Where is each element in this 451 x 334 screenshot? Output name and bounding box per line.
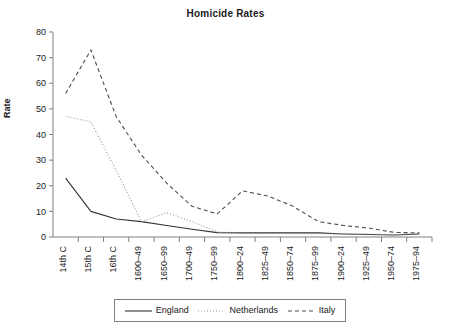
x-tick-label: 1950–74 [386,246,396,281]
y-tick-label: 30 [36,155,46,165]
legend-swatch-netherlands [198,307,225,315]
x-tick-label: 1900–24 [336,246,346,281]
plot-area: 01020304050607080 14th C15th C16th C1600… [0,0,451,334]
chart-container: Homicide Rates Rate 01020304050607080 14… [0,0,451,334]
series-line-england [66,178,420,235]
y-axis: 01020304050607080 [36,27,53,242]
x-axis: 14th C15th C16th C1600–491650–991700–491… [53,237,432,281]
series-line-italy [66,50,420,233]
x-tick-label: 1650–99 [159,246,169,281]
legend-label-england: England [156,306,189,315]
x-tick-label: 1800–24 [235,246,245,281]
y-tick-label: 70 [36,53,46,63]
x-tick-label: 15th C [83,246,93,273]
y-tick-label: 60 [36,78,46,88]
x-tick-label: 1825–49 [260,246,270,281]
x-tick-label: 1925–49 [361,246,371,281]
legend-swatch-england [125,307,152,315]
y-tick-label: 50 [36,104,46,114]
y-tick-label: 10 [36,207,46,217]
x-tick-label: 1700–49 [184,246,194,281]
legend-swatch-italy [288,307,315,315]
y-tick-label: 80 [36,27,46,37]
y-tick-label: 20 [36,181,46,191]
chart-legend: England Netherlands Italy [114,299,346,322]
x-tick-label: 14th C [58,246,68,273]
legend-item-netherlands: Netherlands [198,306,278,315]
legend-label-italy: Italy [319,306,336,315]
x-tick-label: 1975–94 [411,246,421,281]
x-tick-label: 1750–99 [209,246,219,281]
y-tick-label: 40 [36,130,46,140]
series-line-netherlands [66,117,420,235]
data-series-group [66,50,420,235]
x-tick-label: 1850–74 [285,246,295,281]
x-tick-label: 1600–49 [133,246,143,281]
legend-label-netherlands: Netherlands [229,306,278,315]
y-tick-label: 0 [41,232,46,242]
x-tick-label: 1875–99 [310,246,320,281]
x-tick-label: 16th C [108,246,118,273]
legend-item-england: England [125,306,189,315]
legend-item-italy: Italy [288,306,336,315]
